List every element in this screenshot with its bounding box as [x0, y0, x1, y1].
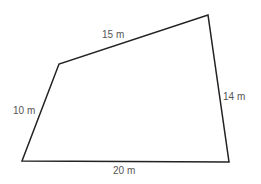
quadrilateral-diagram — [0, 0, 261, 184]
side-label-top: 15 m — [102, 30, 124, 40]
side-label-left: 10 m — [13, 106, 35, 116]
side-label-right: 14 m — [223, 92, 245, 102]
side-label-bottom: 20 m — [113, 166, 135, 176]
quadrilateral-shape — [22, 15, 229, 162]
